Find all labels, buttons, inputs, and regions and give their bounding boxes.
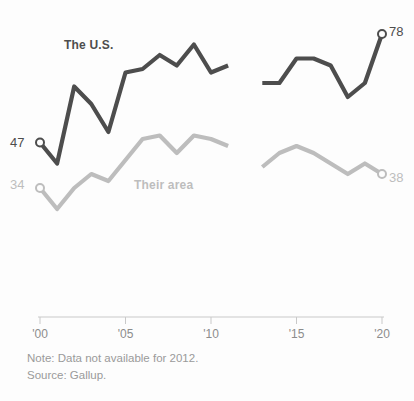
x-axis-tick-10: '10 <box>203 327 219 341</box>
series-label-us: The U.S. <box>64 38 114 52</box>
endpoint-markers <box>36 30 386 192</box>
endpoint-value-left-their-area: 34 <box>10 177 24 192</box>
endpoint-value-left-us: 47 <box>10 135 24 150</box>
chart-footnotes: Note: Data not available for 2012. Sourc… <box>27 350 407 384</box>
footnote-note: Note: Data not available for 2012. <box>27 350 407 367</box>
series-path-us-seg0 <box>40 45 228 164</box>
endpoint-value-right-us: 78 <box>389 24 403 39</box>
footnote-source: Source: Gallup. <box>27 367 407 384</box>
series-path-their-area-seg0 <box>40 136 228 210</box>
series-lines <box>40 34 382 209</box>
endpoint-marker-their-area-end <box>378 170 386 178</box>
x-axis-tick-15: '15 <box>289 327 305 341</box>
endpoint-marker-us-start <box>36 139 44 147</box>
series-path-their-area-seg1 <box>262 146 382 174</box>
x-axis-tick-05: '05 <box>118 327 134 341</box>
endpoint-marker-us-end <box>378 30 386 38</box>
chart-container: The U.S. Their area 47 34 78 38 '00'05'1… <box>0 0 414 401</box>
x-axis-tick-00: '00 <box>32 327 48 341</box>
x-axis-tick-20: '20 <box>374 327 390 341</box>
endpoint-marker-their-area-start <box>36 184 44 192</box>
x-axis <box>38 317 384 324</box>
series-label-their-area: Their area <box>134 178 193 192</box>
series-path-us-seg1 <box>262 34 382 97</box>
endpoint-value-right-their-area: 38 <box>389 170 403 185</box>
